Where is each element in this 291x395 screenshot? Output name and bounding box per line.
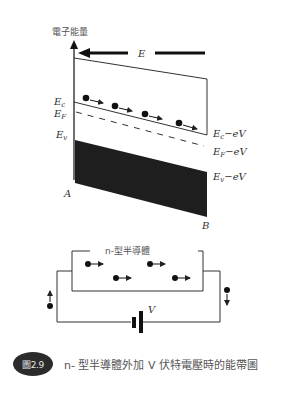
battery-negative-plate [132,317,136,328]
point-b-label: B [201,220,209,231]
voltage-label: V [148,304,157,315]
field-label: E [137,48,146,59]
battery-positive-plate [139,311,143,333]
ev-ev-label: Ev−eV [212,171,248,184]
axis-label: 電子能量 [52,26,88,37]
circuit [47,251,230,333]
energy-band-diagram: 電子能量 E Ec EF Ev Ec−eV EF−eV Ev−eV A B [0,0,291,395]
electrons-band [83,95,197,129]
valence-band [75,140,207,217]
ec-ev-label: Ec−eV [212,128,248,141]
ef-ev-label: EF−eV [212,146,248,159]
ef-label: EF [53,108,67,121]
figure-badge: 圖2.9 [13,352,53,376]
point-a-label: A [63,188,71,199]
figure-caption: n- 型半導體外加 V 伏特電壓時的能帶圖 [64,356,258,372]
semiconductor-label: n-型半導體 [105,245,150,256]
ev-label: Ev [55,129,67,142]
conduction-band-box [74,58,207,135]
